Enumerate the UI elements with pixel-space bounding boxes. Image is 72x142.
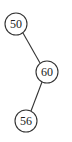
edge-60-56	[31, 82, 42, 111]
tree-node-50: 50	[5, 13, 27, 35]
tree-node-60: 60	[36, 61, 58, 83]
node-label: 56	[20, 114, 32, 128]
node-label: 50	[10, 17, 22, 31]
tree-node-56: 56	[15, 110, 37, 132]
edge-50-60	[23, 33, 40, 63]
node-label: 60	[41, 65, 53, 79]
tree-diagram: 50 60 56	[0, 0, 72, 142]
